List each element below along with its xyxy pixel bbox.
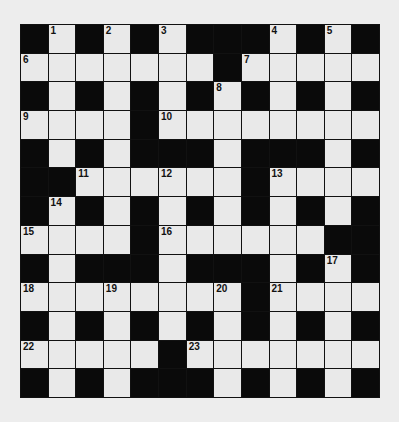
crossword-cell[interactable] (242, 341, 269, 369)
crossword-cell[interactable] (214, 369, 241, 397)
crossword-cell[interactable] (49, 312, 76, 340)
crossword-cell[interactable]: 12 (159, 168, 186, 196)
crossword-cell[interactable] (104, 369, 131, 397)
crossword-cell[interactable] (325, 369, 352, 397)
crossword-cell[interactable] (297, 283, 324, 311)
crossword-cell[interactable] (187, 226, 214, 254)
crossword-cell[interactable] (270, 54, 297, 82)
crossword-cell[interactable] (104, 312, 131, 340)
crossword-cell[interactable]: 23 (187, 341, 214, 369)
crossword-cell[interactable] (159, 82, 186, 110)
crossword-cell[interactable]: 20 (214, 283, 241, 311)
crossword-cell[interactable] (131, 341, 158, 369)
crossword-cell[interactable] (49, 341, 76, 369)
crossword-cell[interactable]: 19 (104, 283, 131, 311)
crossword-cell[interactable]: 17 (325, 255, 352, 283)
crossword-cell[interactable] (270, 82, 297, 110)
crossword-cell[interactable] (159, 54, 186, 82)
crossword-cell[interactable] (214, 197, 241, 225)
crossword-cell[interactable] (352, 111, 379, 139)
crossword-cell[interactable]: 10 (159, 111, 186, 139)
crossword-cell[interactable] (325, 82, 352, 110)
crossword-cell[interactable] (242, 111, 269, 139)
crossword-cell[interactable] (49, 140, 76, 168)
crossword-cell[interactable] (49, 54, 76, 82)
crossword-cell[interactable] (76, 226, 103, 254)
crossword-cell[interactable]: 21 (270, 283, 297, 311)
crossword-cell[interactable] (131, 54, 158, 82)
crossword-cell[interactable]: 9 (21, 111, 48, 139)
crossword-cell[interactable] (297, 54, 324, 82)
crossword-cell[interactable]: 3 (159, 25, 186, 53)
crossword-cell[interactable] (270, 255, 297, 283)
crossword-cell[interactable] (270, 341, 297, 369)
crossword-cell[interactable] (104, 54, 131, 82)
crossword-cell[interactable] (352, 54, 379, 82)
crossword-cell[interactable] (104, 341, 131, 369)
crossword-cell[interactable]: 15 (21, 226, 48, 254)
crossword-cell[interactable] (242, 226, 269, 254)
crossword-cell[interactable] (325, 54, 352, 82)
crossword-cell[interactable]: 14 (49, 197, 76, 225)
crossword-cell[interactable]: 2 (104, 25, 131, 53)
crossword-cell[interactable] (187, 54, 214, 82)
crossword-cell[interactable] (104, 82, 131, 110)
crossword-cell[interactable] (270, 111, 297, 139)
crossword-cell[interactable] (49, 369, 76, 397)
crossword-cell[interactable]: 6 (21, 54, 48, 82)
crossword-cell[interactable] (76, 283, 103, 311)
crossword-cell[interactable]: 11 (76, 168, 103, 196)
crossword-cell[interactable] (76, 341, 103, 369)
crossword-cell[interactable] (297, 168, 324, 196)
crossword-cell[interactable] (49, 283, 76, 311)
crossword-cell[interactable] (187, 283, 214, 311)
crossword-cell[interactable]: 7 (242, 54, 269, 82)
crossword-cell[interactable] (214, 168, 241, 196)
crossword-cell[interactable] (325, 341, 352, 369)
crossword-cell[interactable] (104, 140, 131, 168)
crossword-cell[interactable]: 1 (49, 25, 76, 53)
crossword-cell[interactable]: 5 (325, 25, 352, 53)
crossword-cell[interactable] (76, 54, 103, 82)
crossword-cell[interactable] (297, 111, 324, 139)
crossword-cell[interactable] (49, 111, 76, 139)
crossword-cell[interactable] (76, 111, 103, 139)
crossword-cell[interactable] (104, 111, 131, 139)
crossword-cell[interactable] (49, 255, 76, 283)
crossword-cell[interactable]: 22 (21, 341, 48, 369)
crossword-cell[interactable] (104, 168, 131, 196)
crossword-cell[interactable]: 13 (270, 168, 297, 196)
crossword-cell[interactable]: 4 (270, 25, 297, 53)
crossword-cell[interactable] (270, 226, 297, 254)
crossword-cell[interactable] (270, 197, 297, 225)
crossword-cell[interactable] (214, 140, 241, 168)
crossword-cell[interactable] (131, 168, 158, 196)
crossword-cell[interactable] (270, 369, 297, 397)
crossword-cell[interactable] (214, 312, 241, 340)
crossword-cell[interactable] (214, 226, 241, 254)
crossword-cell[interactable] (325, 168, 352, 196)
crossword-cell[interactable] (104, 226, 131, 254)
crossword-cell[interactable] (325, 197, 352, 225)
crossword-cell[interactable] (159, 312, 186, 340)
crossword-cell[interactable] (270, 312, 297, 340)
crossword-cell[interactable] (159, 197, 186, 225)
crossword-cell[interactable] (214, 341, 241, 369)
crossword-cell[interactable] (187, 111, 214, 139)
crossword-cell[interactable] (325, 283, 352, 311)
crossword-cell[interactable] (187, 168, 214, 196)
crossword-cell[interactable] (104, 197, 131, 225)
crossword-cell[interactable] (49, 226, 76, 254)
crossword-cell[interactable]: 8 (214, 82, 241, 110)
crossword-cell[interactable] (325, 111, 352, 139)
crossword-cell[interactable]: 16 (159, 226, 186, 254)
crossword-cell[interactable] (159, 283, 186, 311)
crossword-cell[interactable] (325, 312, 352, 340)
crossword-cell[interactable] (159, 255, 186, 283)
crossword-cell[interactable] (131, 283, 158, 311)
crossword-cell[interactable] (325, 140, 352, 168)
crossword-cell[interactable] (49, 82, 76, 110)
crossword-cell[interactable]: 18 (21, 283, 48, 311)
crossword-cell[interactable] (352, 168, 379, 196)
crossword-cell[interactable] (297, 226, 324, 254)
